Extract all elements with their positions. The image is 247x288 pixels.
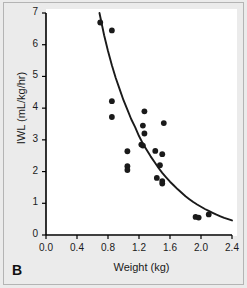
y-axis-label: IWL (mL/kg/hr)	[15, 43, 27, 173]
x-tick-label: 1.2	[126, 242, 152, 253]
y-tick-label: 1	[16, 196, 38, 207]
data-point	[109, 28, 115, 34]
x-tick-label: 2.4	[219, 242, 245, 253]
data-point	[124, 148, 130, 154]
x-tick-label: 0.4	[64, 242, 90, 253]
data-point	[109, 114, 115, 120]
data-point	[154, 175, 160, 181]
figure-panel: 01234567 0.00.40.81.21.62.02.4 IWL (mL/k…	[0, 0, 247, 288]
data-point	[159, 151, 165, 157]
data-point	[140, 123, 146, 129]
data-point	[196, 215, 202, 221]
x-tick-label: 0.8	[95, 242, 121, 253]
data-points	[97, 20, 211, 221]
x-tick-label: 1.6	[157, 242, 183, 253]
x-tick-label: 2.0	[188, 242, 214, 253]
data-point	[142, 131, 148, 137]
data-point	[157, 162, 163, 168]
x-tick-label: 0.0	[33, 242, 59, 253]
y-tick-label: 7	[16, 6, 38, 17]
fit-curve	[99, 13, 232, 220]
data-point	[109, 98, 115, 104]
data-point	[97, 20, 103, 26]
data-point	[159, 181, 165, 187]
y-tick-label: 0	[16, 228, 38, 239]
x-axis-label: Weight (kg)	[46, 261, 237, 273]
data-point	[140, 143, 146, 149]
panel-label: B	[12, 262, 22, 278]
data-point	[124, 167, 130, 173]
data-point	[152, 148, 158, 154]
axes	[42, 13, 232, 239]
data-point	[142, 108, 148, 114]
data-point	[161, 120, 167, 126]
data-point	[206, 211, 212, 217]
